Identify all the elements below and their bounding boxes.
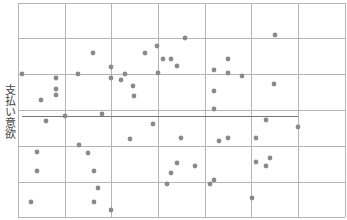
data-point	[254, 136, 259, 141]
data-point	[76, 72, 81, 77]
data-point	[226, 57, 231, 62]
data-point	[63, 114, 68, 119]
data-point	[100, 112, 105, 117]
data-point	[179, 136, 184, 141]
data-point	[155, 44, 160, 49]
data-point	[119, 78, 124, 83]
data-point	[132, 94, 137, 99]
scatter-chart	[0, 0, 347, 220]
data-point	[54, 87, 59, 92]
data-point	[123, 72, 128, 77]
data-point	[212, 68, 217, 73]
data-point	[193, 164, 198, 169]
data-point	[212, 89, 217, 94]
data-point	[35, 169, 40, 174]
data-point	[264, 164, 269, 169]
data-point	[128, 137, 133, 142]
data-point	[92, 200, 97, 205]
data-point	[109, 208, 114, 213]
data-point	[44, 119, 49, 124]
data-point	[86, 151, 91, 156]
data-point	[183, 36, 188, 41]
data-point	[92, 169, 97, 174]
data-point	[143, 51, 148, 56]
data-point	[35, 150, 40, 155]
data-point	[151, 122, 156, 127]
data-point	[156, 71, 161, 76]
data-point	[54, 93, 59, 98]
data-point	[91, 51, 96, 56]
data-point	[39, 98, 44, 103]
data-point	[77, 143, 82, 148]
data-point	[212, 107, 217, 112]
data-point	[131, 84, 136, 89]
grid-lines	[18, 3, 346, 218]
data-point	[169, 57, 174, 62]
y-axis-label: 支払い意欲	[1, 84, 15, 139]
data-point	[212, 178, 217, 183]
data-point	[175, 161, 180, 166]
data-point	[54, 76, 59, 81]
data-point	[268, 156, 273, 161]
data-point	[296, 125, 301, 130]
data-point	[217, 139, 222, 144]
data-point	[109, 65, 114, 70]
data-point	[226, 136, 231, 141]
data-point	[29, 200, 34, 205]
data-point	[175, 64, 180, 69]
data-point	[254, 160, 259, 165]
data-point	[273, 33, 278, 38]
data-point	[264, 118, 269, 123]
data-points	[20, 33, 301, 213]
data-point	[250, 196, 255, 201]
data-point	[165, 182, 170, 187]
data-point	[169, 171, 174, 176]
data-point	[96, 186, 101, 191]
data-point	[20, 72, 25, 77]
data-point	[208, 182, 213, 187]
data-point	[272, 82, 277, 87]
data-point	[109, 76, 114, 81]
data-point	[161, 57, 166, 62]
data-point	[226, 71, 231, 76]
data-point	[240, 74, 245, 79]
